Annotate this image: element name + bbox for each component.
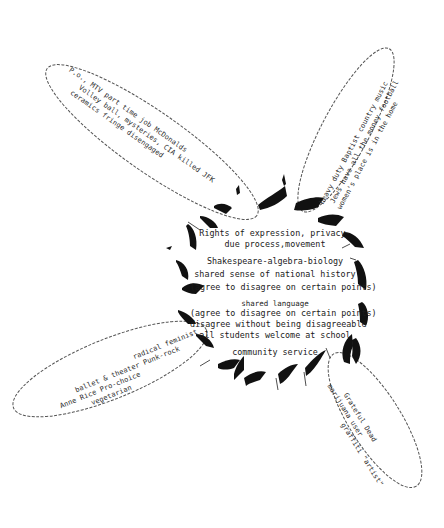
core-line: Rights of expression, privacy- bbox=[190, 228, 360, 239]
core-block-rights: Rights of expression, privacy- due proce… bbox=[190, 228, 360, 250]
core-line: disagree without being disagreeable bbox=[190, 319, 360, 330]
core-line: Shakespeare-algebra-biology bbox=[190, 256, 360, 267]
core-line: (agree to disagree on certain points) bbox=[190, 282, 360, 293]
core-line: community service bbox=[190, 347, 360, 358]
core-values: Rights of expression, privacy- due proce… bbox=[190, 228, 360, 364]
core-line: due process,movement bbox=[190, 239, 360, 250]
core-block-service: community service bbox=[190, 347, 360, 358]
core-line: (agree to disagree on certain points) bbox=[190, 308, 360, 319]
core-line: shared sense of national history bbox=[190, 269, 360, 280]
core-line: all students welcome at school bbox=[190, 330, 360, 341]
diagram-canvas: P.o., MTV part time job McDonalds Volley… bbox=[0, 0, 444, 528]
core-block-language: shared language (agree to disagree on ce… bbox=[190, 299, 360, 341]
core-block-curriculum: Shakespeare-algebra-biology shared sense… bbox=[190, 256, 360, 293]
core-line: shared language bbox=[190, 299, 360, 308]
